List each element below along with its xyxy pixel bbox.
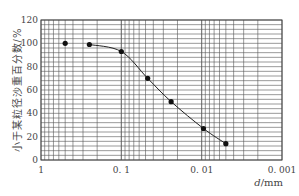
y-tick-label: 100 <box>21 38 38 48</box>
y-axis-ticks: 020406080100120 <box>21 15 38 165</box>
y-tick-label: 0 <box>32 155 38 165</box>
y-tick-label: 20 <box>27 132 39 142</box>
x-tick-label: 0. 1 <box>113 165 130 175</box>
data-point-marker <box>201 126 206 131</box>
grain-size-chart: 020406080100120 10. 10. 010. 001 小于某粒径沙重… <box>0 0 299 196</box>
y-tick-label: 60 <box>27 85 39 95</box>
x-axis-ticks: 10. 10. 010. 001 <box>38 165 296 175</box>
y-axis-label: 小于某粒径沙重百分数/% <box>11 28 23 153</box>
y-tick-label: 40 <box>27 108 39 118</box>
x-tick-label: 0. 001 <box>268 165 297 175</box>
x-tick-label: 1 <box>38 165 44 175</box>
y-tick-label: 120 <box>21 15 38 25</box>
data-point-marker <box>169 99 174 104</box>
plot-grid <box>41 20 282 160</box>
x-tick-label: 0. 01 <box>190 165 213 175</box>
x-axis-label: d/mm <box>254 177 283 188</box>
data-point-marker <box>87 42 92 47</box>
data-point-marker <box>223 141 228 146</box>
y-tick-label: 80 <box>27 62 39 72</box>
data-point-marker <box>119 49 124 54</box>
data-point-marker <box>145 76 150 81</box>
data-point-marker <box>63 41 68 46</box>
